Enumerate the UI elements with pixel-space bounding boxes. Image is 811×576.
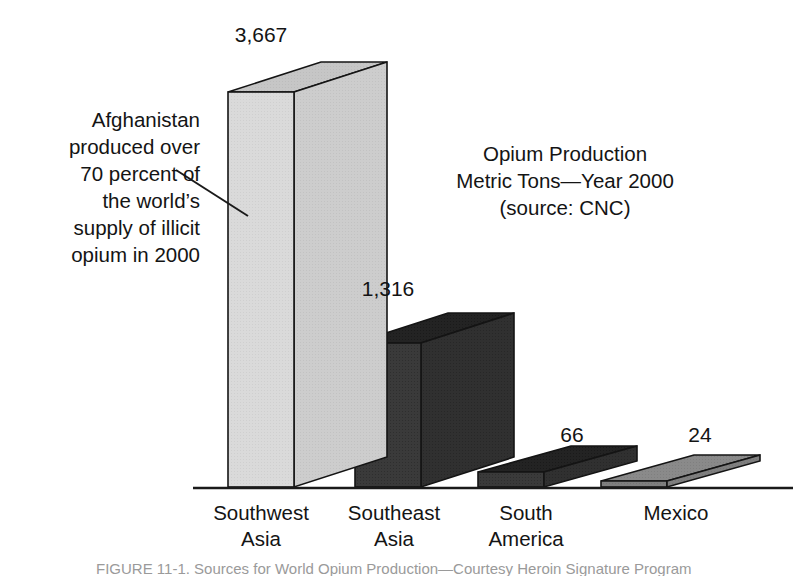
value-label-mexico: 24 [680, 424, 720, 445]
chart-source: (source: CNC) [420, 194, 710, 221]
category-label-southeast-asia: Southeast Asia [318, 500, 470, 552]
figure-caption: FIGURE 11-1. Sources for World Opium Pro… [96, 560, 796, 576]
chart-title-block: Opium Production Metric Tons—Year 2000 (… [420, 140, 710, 221]
category-label-south-america: South America [450, 500, 602, 552]
value-label-south-america: 66 [552, 424, 592, 445]
chart-figure: Afghanistan produced over 70 percent of … [0, 0, 811, 576]
value-label-southwest-asia: 3,667 [228, 24, 294, 45]
annotation-callout: Afghanistan produced over 70 percent of … [8, 106, 200, 268]
bar-southwest-asia [228, 62, 387, 487]
chart-title: Opium Production [420, 140, 710, 167]
chart-subtitle: Metric Tons—Year 2000 [420, 167, 710, 194]
category-label-southwest-asia: Southwest Asia [185, 500, 337, 552]
value-label-southeast-asia: 1,316 [355, 278, 421, 299]
category-label-mexico: Mexico [600, 500, 752, 526]
